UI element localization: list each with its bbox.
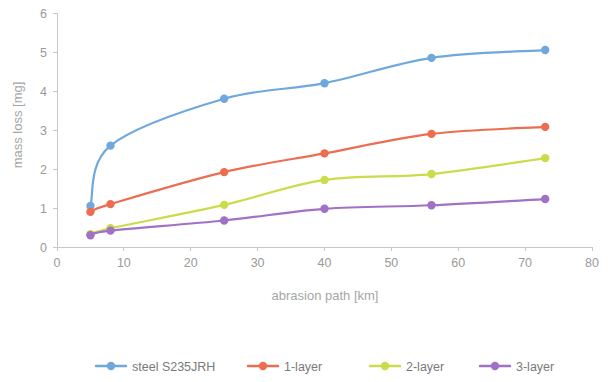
legend-marker [107, 362, 115, 370]
data-point-marker [106, 226, 114, 234]
x-tick-label: 30 [251, 256, 265, 270]
y-tick-label: 1 [40, 202, 47, 216]
y-tick-label: 3 [40, 124, 47, 138]
data-point-marker [427, 130, 435, 138]
x-axis-title: abrasion path [km] [272, 288, 379, 303]
legend-label: 3-layer [516, 360, 554, 374]
legend-item-2[interactable]: 1-layer [248, 360, 322, 374]
data-point-marker [106, 141, 114, 149]
data-point-marker [541, 154, 549, 162]
data-point-marker [541, 46, 549, 54]
data-point-marker [220, 216, 228, 224]
series-group [86, 46, 549, 240]
y-tick-label: 6 [40, 7, 47, 21]
data-point-marker [86, 231, 94, 239]
data-point-marker [220, 201, 228, 209]
x-tick-label: 80 [585, 256, 599, 270]
data-point-marker [541, 195, 549, 203]
legend-label: 2-layer [406, 360, 444, 374]
legend-item-3[interactable]: 2-layer [370, 360, 444, 374]
x-tick-label: 10 [117, 256, 131, 270]
y-axis-title: mass loss [mg] [10, 82, 25, 169]
chart-legend: steel S235JRH1-layer2-layer3-layer [96, 360, 554, 374]
data-point-marker [427, 170, 435, 178]
series-4 [86, 195, 549, 240]
data-point-marker [86, 208, 94, 216]
x-tick-label: 0 [54, 256, 61, 270]
series-1 [86, 46, 549, 210]
x-tick-label: 70 [518, 256, 532, 270]
data-point-marker [427, 201, 435, 209]
y-tick-label: 5 [40, 46, 47, 60]
y-axis-tick-labels: 0123456 [40, 7, 47, 255]
legend-marker [491, 362, 499, 370]
data-point-marker [541, 123, 549, 131]
data-point-marker [320, 176, 328, 184]
series-line [90, 50, 545, 206]
data-point-marker [427, 54, 435, 62]
data-point-marker [106, 200, 114, 208]
data-point-marker [220, 95, 228, 103]
x-axis-tick-labels: 01020304050607080 [54, 256, 599, 270]
line-chart: 0123456 01020304050607080 mass loss [mg]… [0, 0, 616, 382]
data-point-marker [220, 168, 228, 176]
x-tick-label: 60 [451, 256, 465, 270]
x-tick-label: 40 [318, 256, 332, 270]
data-point-marker [320, 149, 328, 157]
data-point-marker [320, 79, 328, 87]
data-point-marker [320, 205, 328, 213]
legend-item-1[interactable]: steel S235JRH [96, 360, 215, 374]
legend-label: 1-layer [284, 360, 322, 374]
x-tick-label: 20 [184, 256, 198, 270]
series-line [90, 199, 545, 235]
x-tick-label: 50 [384, 256, 398, 270]
y-tick-label: 0 [40, 241, 47, 255]
legend-label: steel S235JRH [132, 360, 215, 374]
y-tick-label: 2 [40, 163, 47, 177]
legend-item-4[interactable]: 3-layer [480, 360, 554, 374]
series-line [90, 158, 545, 234]
legend-marker [381, 362, 389, 370]
legend-marker [259, 362, 267, 370]
chart-container: 0123456 01020304050607080 mass loss [mg]… [0, 0, 616, 382]
y-tick-label: 4 [40, 85, 47, 99]
